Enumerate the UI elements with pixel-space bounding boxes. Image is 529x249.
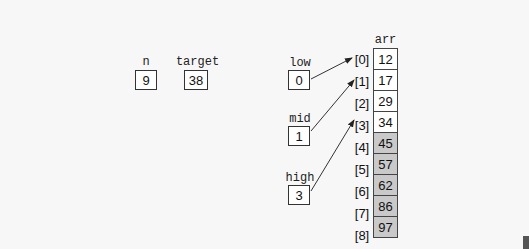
high-arrow [311,120,354,191]
corner-marker [523,236,529,249]
mid-arrow [311,80,354,131]
pointer-arrows [0,0,529,249]
low-arrow [311,58,352,79]
